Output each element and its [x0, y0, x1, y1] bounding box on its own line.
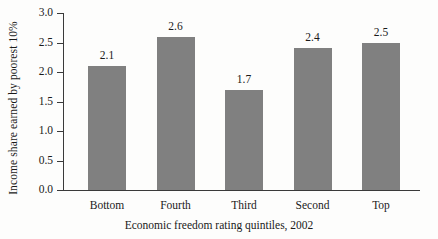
y-tick-label: 0.0	[19, 184, 53, 196]
bar-value-label: 2.5	[362, 26, 400, 38]
plot-area: 2.12.61.72.42.5	[63, 13, 420, 190]
bar-value-label: 2.4	[294, 31, 332, 43]
y-tick-label: 0.5	[19, 155, 53, 167]
y-tick-label: 3.0	[19, 7, 53, 19]
bar	[362, 43, 400, 191]
bar	[157, 37, 195, 190]
bar	[225, 90, 263, 190]
x-category-label: Top	[341, 199, 421, 211]
x-axis-line	[63, 190, 420, 191]
bar-value-label: 2.6	[157, 20, 195, 32]
y-axis-line	[63, 13, 64, 190]
y-tick-label: 1.0	[19, 125, 53, 137]
x-axis-title: Economic freedom rating quintiles, 2002	[0, 219, 438, 232]
bar-value-label: 2.1	[88, 49, 126, 61]
y-tick-label: 2.0	[19, 66, 53, 78]
bar-value-label: 1.7	[225, 73, 263, 85]
y-tick-label: 2.5	[19, 37, 53, 49]
bar-chart-figure: Income share earned by poorest 10% 0.00.…	[0, 0, 438, 239]
y-tick-label: 1.5	[19, 96, 53, 108]
bar	[88, 66, 126, 190]
bar	[294, 48, 332, 190]
